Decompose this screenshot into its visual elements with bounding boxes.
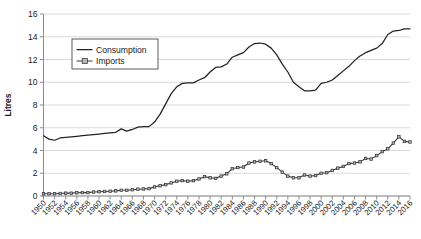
imports-data-point <box>187 180 190 183</box>
imports-data-point <box>59 192 62 195</box>
chart-container: 0246810121416Litres195019521954195619581… <box>0 0 421 239</box>
imports-line <box>44 137 411 194</box>
imports-data-point <box>248 162 251 165</box>
imports-data-point <box>387 148 390 151</box>
chart-legend: ConsumptionImports <box>72 39 158 69</box>
imports-data-point <box>270 162 273 165</box>
imports-data-point <box>359 161 362 164</box>
imports-data-point <box>198 178 201 181</box>
imports-data-point <box>370 158 373 161</box>
imports-data-point <box>259 160 262 163</box>
imports-data-point <box>253 161 256 164</box>
imports-data-point <box>109 190 112 193</box>
imports-data-point <box>242 166 245 169</box>
imports-data-point <box>170 182 173 185</box>
imports-data-point <box>92 191 95 194</box>
legend-label-imports: Imports <box>96 56 125 66</box>
imports-data-point <box>320 172 323 175</box>
imports-data-point <box>176 180 179 183</box>
y-tick-label: 14 <box>28 32 38 42</box>
imports-data-point <box>331 169 334 172</box>
imports-data-point <box>181 179 184 182</box>
y-tick-label: 8 <box>33 100 38 110</box>
y-tick-label: 6 <box>33 123 38 133</box>
imports-data-point <box>64 192 67 195</box>
imports-data-point <box>153 186 156 189</box>
imports-data-point <box>159 185 162 188</box>
imports-data-point <box>409 141 412 144</box>
imports-data-point <box>375 154 378 157</box>
y-tick-label: 10 <box>28 77 38 87</box>
y-tick-label: 0 <box>33 191 38 201</box>
imports-data-point <box>137 188 140 191</box>
imports-data-point <box>81 191 84 194</box>
imports-data-point <box>353 162 356 165</box>
imports-data-point <box>226 173 229 176</box>
imports-data-point <box>398 136 401 139</box>
imports-data-point <box>103 190 106 193</box>
y-tick-label: 4 <box>33 146 38 156</box>
imports-data-point <box>220 175 223 178</box>
imports-data-point <box>87 191 90 194</box>
imports-data-point <box>309 175 312 178</box>
series-imports <box>42 136 411 195</box>
imports-data-point <box>237 166 240 169</box>
legend-swatch-imports-marker <box>82 58 87 63</box>
imports-data-point <box>120 189 123 192</box>
y-tick-label: 2 <box>33 168 38 178</box>
imports-data-point <box>337 167 340 170</box>
imports-data-point <box>292 177 295 180</box>
imports-data-point <box>214 177 217 180</box>
y-axis: 0246810121416 <box>28 9 43 201</box>
y-tick-label: 12 <box>28 55 38 65</box>
imports-data-point <box>264 159 267 162</box>
imports-data-point <box>325 171 328 174</box>
imports-data-point <box>148 187 151 190</box>
imports-data-point <box>48 192 51 195</box>
imports-data-point <box>275 166 278 169</box>
imports-data-point <box>287 175 290 178</box>
imports-data-point <box>53 192 56 195</box>
imports-data-point <box>142 188 145 191</box>
imports-data-point <box>231 167 234 170</box>
imports-data-point <box>348 162 351 165</box>
y-tick-label: 16 <box>28 9 38 19</box>
imports-data-point <box>392 142 395 145</box>
imports-data-point <box>76 192 79 195</box>
x-axis: 1950195219541956195819601962196419661968… <box>29 196 414 217</box>
imports-data-point <box>131 188 134 191</box>
imports-data-point <box>126 189 129 192</box>
imports-data-point <box>303 174 306 177</box>
imports-data-point <box>403 140 406 143</box>
imports-data-point <box>314 174 317 177</box>
imports-data-point <box>70 192 73 195</box>
imports-data-point <box>281 171 284 174</box>
imports-data-point <box>364 157 367 160</box>
imports-data-point <box>192 179 195 182</box>
line-chart: 0246810121416Litres195019521954195619581… <box>0 0 421 239</box>
imports-data-point <box>114 190 117 193</box>
imports-data-point <box>381 150 384 153</box>
imports-data-point <box>342 165 345 168</box>
imports-data-point <box>209 177 212 180</box>
imports-data-point <box>298 177 301 180</box>
legend-label-consumption: Consumption <box>96 45 147 55</box>
y-axis-title: Litres <box>3 93 13 116</box>
imports-data-point <box>203 175 206 178</box>
imports-data-point <box>164 183 167 186</box>
imports-data-point <box>42 192 45 195</box>
imports-data-point <box>98 190 101 193</box>
